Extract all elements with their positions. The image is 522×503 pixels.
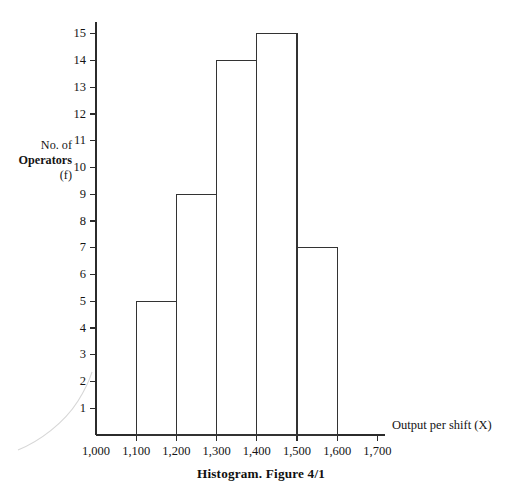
histogram-bar bbox=[136, 301, 176, 435]
x-tick-label: 1,500 bbox=[274, 445, 320, 458]
y-tick-label: 6 bbox=[60, 268, 86, 281]
y-axis-title: No. of Operators (f) bbox=[10, 138, 72, 183]
x-tick-label: 1,000 bbox=[73, 445, 119, 458]
histogram-bar bbox=[297, 248, 337, 435]
x-tick-label: 1,700 bbox=[354, 445, 400, 458]
x-tick-label: 1,400 bbox=[234, 445, 280, 458]
x-tick-label: 1,600 bbox=[314, 445, 360, 458]
y-axis-title-line-3: (f) bbox=[10, 168, 72, 183]
x-tick-label: 1,300 bbox=[194, 445, 240, 458]
y-tick-label: 2 bbox=[60, 375, 86, 388]
histogram-bar bbox=[217, 61, 257, 436]
figure-page: 123456789101112131415 1,0001,1001,2001,3… bbox=[0, 0, 522, 503]
y-tick-label: 3 bbox=[60, 348, 86, 361]
y-tick-label: 9 bbox=[60, 188, 86, 201]
y-tick-label: 4 bbox=[60, 322, 86, 335]
x-tick-label: 1,100 bbox=[113, 445, 159, 458]
x-axis-ticks bbox=[136, 435, 377, 441]
y-tick-label: 7 bbox=[60, 241, 86, 254]
x-axis-title: Output per shift (X) bbox=[392, 419, 492, 432]
histogram-figure: 123456789101112131415 1,0001,1001,2001,3… bbox=[0, 0, 522, 503]
y-axis-title-line-1: No. of bbox=[10, 138, 72, 153]
axis-lines bbox=[96, 22, 385, 435]
histogram-bars bbox=[136, 34, 337, 435]
figure-caption: Histogram. Figure 4/1 bbox=[0, 466, 522, 482]
histogram-bar bbox=[176, 194, 216, 435]
x-tick-label: 1,200 bbox=[153, 445, 199, 458]
histogram-bar bbox=[257, 34, 297, 435]
y-tick-label: 14 bbox=[60, 54, 86, 67]
y-axis-title-line-2: Operators bbox=[10, 153, 72, 168]
y-tick-label: 13 bbox=[60, 81, 86, 94]
y-tick-label: 15 bbox=[60, 27, 86, 40]
y-tick-label: 5 bbox=[60, 295, 86, 308]
y-axis-ticks bbox=[90, 34, 96, 409]
y-tick-label: 1 bbox=[60, 402, 86, 415]
y-tick-label: 8 bbox=[60, 215, 86, 228]
y-tick-label: 12 bbox=[60, 108, 86, 121]
